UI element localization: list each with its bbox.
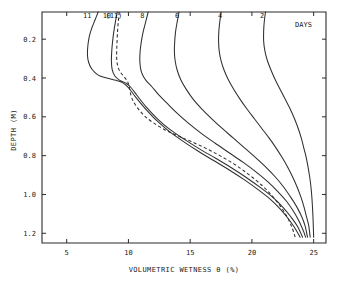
- curve-label-2: 2: [260, 12, 264, 20]
- y-axis-title: DEPTH (M): [10, 109, 18, 151]
- x-tick-label: 25: [309, 249, 317, 257]
- y-tick-label: 0.4: [23, 75, 36, 83]
- curve-label-11: (11): [105, 12, 122, 20]
- figure-container: 510152025 0.20.40.60.81.01.2 1110(11)864…: [0, 0, 343, 284]
- y-tick-label: 1.2: [23, 230, 36, 238]
- y-tick-label: 0.2: [23, 36, 36, 44]
- x-tick-label: 15: [186, 249, 194, 257]
- y-tick-label: 0.8: [23, 152, 36, 160]
- days-annotation: DAYS: [295, 21, 312, 29]
- curve-label-6: 6: [175, 12, 179, 20]
- x-tick-label: 5: [65, 249, 69, 257]
- curve-label-8: 8: [140, 12, 144, 20]
- x-tick-label: 10: [124, 249, 132, 257]
- y-tick-label: 1.0: [23, 191, 36, 199]
- chart-background: [0, 0, 343, 284]
- x-axis-title: VOLUMETRIC WETNESS θ (%): [129, 266, 240, 274]
- curve-label-4: 4: [218, 12, 222, 20]
- curve-label-11: 11: [83, 12, 91, 20]
- soil-moisture-profile-chart: 510152025 0.20.40.60.81.01.2 1110(11)864…: [0, 0, 343, 284]
- x-tick-label: 20: [248, 249, 256, 257]
- y-tick-label: 0.6: [23, 113, 36, 121]
